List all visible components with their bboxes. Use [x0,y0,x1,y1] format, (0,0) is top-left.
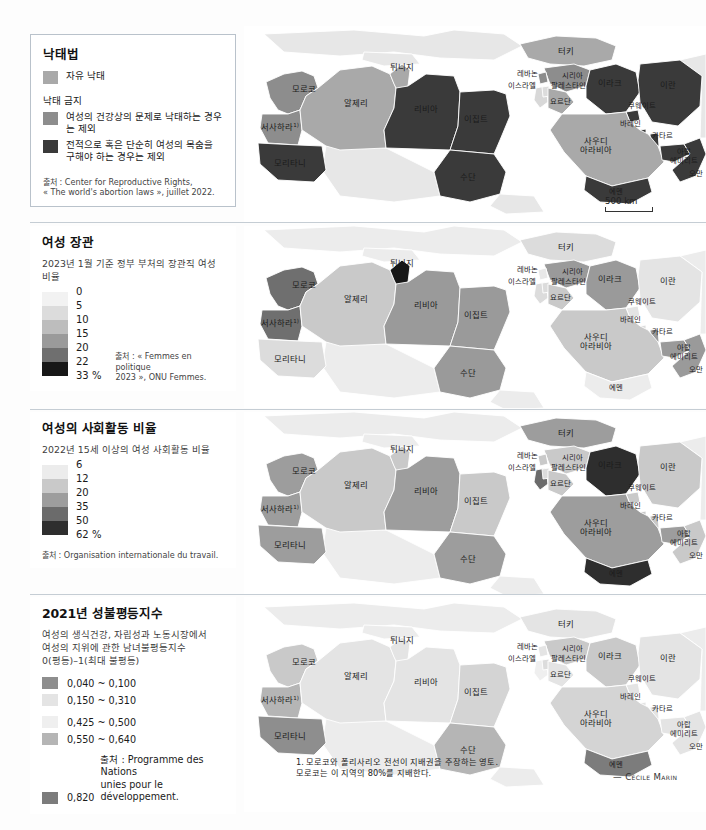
ramp-value: 62 % [76,528,101,542]
legend-swatch [42,792,58,804]
legend-class-label: 0,425 ~ 0,500 [67,717,136,728]
legend-source: 출처 : « Femmes en politique 2023 », ONU F… [115,351,226,383]
map-label-algeria: 알제리 [344,671,368,681]
legend-source: 출처 : Center for Reproductive Rights, « T… [43,177,225,198]
map-label-iran: 이란 [660,653,676,663]
ramp-bar [42,465,68,479]
ramp-value: 6 [76,458,101,472]
ramp-bar [42,493,68,507]
legend-class: 0,425 ~ 0,500 [42,715,226,730]
map-label-qatar: 카타르 [652,131,673,140]
map-label-turkey: 터키 [558,242,574,252]
map-label-bahrain: 바레인 [620,315,641,324]
map-label-turkey: 터키 [558,46,574,56]
ramp-bar [42,306,68,320]
map-label-turkey: 터키 [558,619,574,629]
map-label-kuwait: 쿠웨이트 [628,483,656,492]
legend-item-label: 전적으로 혹은 단순히 여성의 목숨을 구해야 하는 경우는 제외 [66,139,213,163]
ramp-bar [42,479,68,493]
map-label-tunisia: 튀니지 [390,444,414,454]
map-label-oman: 오만 [689,551,703,560]
legend-class: 0,150 ~ 0,310 [42,693,226,708]
map-label-iraq: 이라크 [598,460,622,470]
map-label-lebanon: 레바논 [517,642,538,651]
legend-title: 여성의 사회활동 비율 [42,418,226,437]
map-abortion-law: 모로코서사하라1)알제리튀니지리비아이집트모리타니수단터키시리아레바논이스라엘팔… [244,26,706,222]
map-label-oman: 오만 [689,365,703,374]
map-label-israel: 이스라엘 [508,277,536,286]
legend-class-label: 0,550 ~ 0,640 [67,734,136,745]
ramp-value: 35 [76,500,101,514]
map-label-syria: 시리아 [562,644,583,653]
map-label-iraq: 이라크 [598,78,622,88]
map-label-kuwait: 쿠웨이트 [628,297,656,306]
infographic-sheet: 모로코서사하라1)알제리튀니지리비아이집트모리타니수단터키시리아레바논이스라엘팔… [0,0,706,830]
legend-swatch [42,716,58,728]
map-label-israel: 이스라엘 [508,463,536,472]
map-label-iran: 이란 [660,80,676,90]
map-label-yemen: 예멘 [609,187,623,196]
ramp-bars [42,465,68,542]
map-label-lebanon: 레바논 [517,451,538,460]
map-label-syria: 시리아 [562,267,583,276]
panel-divider [30,594,706,595]
legend-class-label: 0,040 ~ 0,100 [67,678,136,689]
map-label-libya: 리비아 [414,677,438,687]
panel-divider [30,409,706,410]
map-label-sudan: 수단 [460,368,476,378]
ramp-value: 20 [76,486,101,500]
legend-title: 여성 장관 [42,232,226,251]
scale-bar: 500 km [605,196,653,212]
map-label-mauritania: 모리타니 [274,158,306,168]
map-label-saudi-arabia: 사우디아라비아 [580,709,612,728]
map-label-sudan: 수단 [460,172,476,182]
map-label-syria: 시리아 [562,453,583,462]
map-label-egypt: 이집트 [464,114,488,124]
map-label-iraq: 이라크 [598,651,622,661]
map-region-lebanon[interactable] [538,645,548,657]
map-label-algeria: 알제리 [344,98,368,108]
map-label-tunisia: 튀니지 [390,635,414,645]
legend-subtitle: 2022년 15세 이상의 여성 사회활동 비율 [42,444,226,457]
map-label-libya: 리비아 [414,486,438,496]
map-label-yemen: 예멘 [609,760,623,769]
ramp-value: 15 [76,327,101,341]
map-women-ministers: 모로코서사하라1)알제리튀니지리비아이집트모리타니수단터키시리아레바논이스라엘팔… [244,226,706,408]
legend-title: 낙태법 [43,44,225,63]
legend-item-label: 자유 낙태 [66,70,105,82]
map-region-lebanon[interactable] [538,454,548,466]
map-label-morocco: 모로코 [292,280,316,290]
ramp-bar [42,521,68,535]
panel-women-ministers: 모로코서사하라1)알제리튀니지리비아이집트모리타니수단터키시리아레바논이스라엘팔… [0,226,706,408]
legend-women-labour: 여성의 사회활동 비율 2022년 15세 이상의 여성 사회활동 비율 6 1… [30,412,236,568]
map-label-qatar: 카타르 [652,513,673,522]
ramp-bars [42,292,68,383]
legend-class: 0,820 출처 : Programme des Nations unies p… [42,754,226,804]
map-region-lebanon[interactable] [538,72,548,84]
map-label-egypt: 이집트 [464,687,488,697]
ramp-value: 5 [76,299,101,313]
map-label-tunisia: 튀니지 [390,62,414,72]
map-label-bahrain: 바레인 [620,692,641,701]
legend-swatch [43,140,58,153]
ramp-value: 0 [76,285,101,299]
legend-ramp: 6 12 20 35 50 62 % [42,465,226,542]
map-label-yemen: 예멘 [609,569,623,578]
map-label-iraq: 이라크 [598,274,622,284]
legend-item-label: 여성의 건강상의 문제로 낙태하는 경우는 제외 [66,111,225,135]
map-label-tunisia: 튀니지 [390,258,414,268]
legend-class: 0,550 ~ 0,640 [42,732,226,747]
map-region-lebanon[interactable] [538,268,548,280]
map-label-oman: 오만 [689,742,703,751]
map-label-libya: 리비아 [414,104,438,114]
map-label-turkey: 터키 [558,428,574,438]
ramp-value: 22 [76,355,101,369]
panel-divider [30,222,706,223]
legend-swatch [43,112,58,125]
panel-gender-inequality-index: 모로코서사하라1)알제리튀니지리비아이집트모리타니수단터키시리아레바논이스라엘팔… [0,597,706,812]
legend-source: 출처 : Organisation internationale du trav… [42,550,226,561]
map-label-algeria: 알제리 [344,480,368,490]
ramp-values: 6 12 20 35 50 62 % [76,458,101,542]
ramp-bar [42,362,68,376]
legend-swatch [43,71,58,84]
